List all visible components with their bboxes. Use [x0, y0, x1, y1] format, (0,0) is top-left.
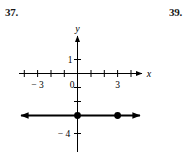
plot-point-0-neg4: [74, 112, 81, 119]
x-tick-label-0: 0: [70, 80, 75, 90]
problem-number-right: 39.: [169, 7, 186, 18]
coordinate-plane-svg: x y − 3 0 3 1 − 4: [0, 22, 186, 159]
plot-point-3-neg4: [114, 112, 121, 119]
x-tick-label-3: 3: [115, 80, 120, 90]
y-tick-label--4: − 4: [58, 129, 71, 139]
x-tick-label--3: − 3: [31, 80, 44, 90]
coordinate-graph-figure: x y − 3 0 3 1 − 4: [0, 22, 186, 159]
problem-number-left: 37.: [5, 7, 18, 18]
y-tick-label-1: 1: [68, 55, 73, 65]
figure-page: 37. 39.: [0, 0, 186, 159]
x-axis-label: x: [146, 68, 152, 79]
y-axis-label: y: [74, 23, 80, 34]
